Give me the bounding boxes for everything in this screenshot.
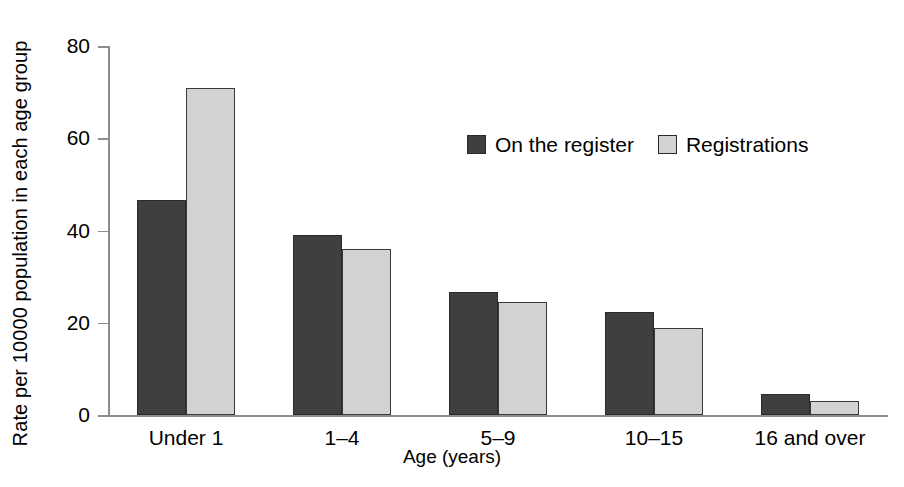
legend-label-registrations: Registrations — [686, 134, 809, 155]
bar-on-the-register — [605, 312, 654, 415]
bar-on-the-register — [293, 235, 342, 415]
y-axis-tick-label: 60 — [32, 127, 90, 148]
legend-swatch-icon-light — [658, 135, 677, 154]
plot-area: 020406080 Under 11–45–910–1516 and over — [108, 46, 888, 417]
legend-label-on-the-register: On the register — [495, 134, 634, 155]
y-axis-tick-label: 20 — [32, 312, 90, 333]
y-axis-tick-label: 0 — [32, 404, 90, 425]
chart-legend: On the register Registrations — [467, 134, 808, 155]
y-axis-tick — [98, 231, 108, 233]
bar-chart-figure: Rate per 10000 population in each age gr… — [0, 0, 904, 487]
y-axis-tick — [98, 138, 108, 140]
legend-item-on-the-register: On the register — [467, 134, 634, 155]
bar-on-the-register — [137, 200, 186, 415]
bar-registrations — [654, 328, 703, 415]
bar-on-the-register — [449, 292, 498, 415]
bar-registrations — [342, 249, 391, 415]
x-axis-title: Age (years) — [0, 446, 904, 468]
legend-item-registrations: Registrations — [658, 134, 809, 155]
y-axis-tick — [98, 323, 108, 325]
y-axis-tick-label: 40 — [32, 220, 90, 241]
bar-on-the-register — [761, 394, 810, 415]
bar-registrations — [810, 401, 859, 415]
y-axis-tick — [98, 46, 108, 48]
legend-swatch-icon-dark — [467, 135, 486, 154]
y-axis-tick — [98, 415, 108, 417]
bar-registrations — [186, 88, 235, 415]
bars-container — [108, 46, 888, 416]
bar-registrations — [498, 302, 547, 415]
y-axis-tick-label: 80 — [32, 35, 90, 56]
